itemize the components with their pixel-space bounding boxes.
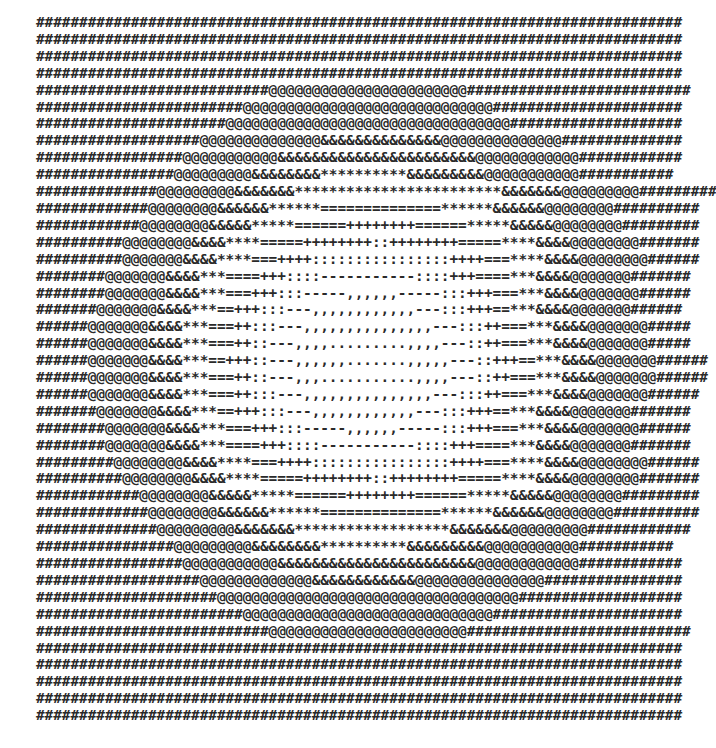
ascii-art-line: ########################@@@@@@@@@@@@@@@@…	[36, 606, 716, 623]
ascii-art-line: ######@@@@@@@&&&&***==+++::---,,,,,,....…	[36, 352, 716, 369]
ascii-art-line: ###########################@@@@@@@@@@@@@…	[36, 623, 716, 640]
ascii-art-line: ##############@@@@@@@@@&&&&&&&**********…	[36, 521, 716, 538]
ascii-art-line: ##############@@@@@@@@@&&&&&&&**********…	[36, 183, 716, 200]
ascii-art-line: ########################################…	[36, 14, 716, 31]
ascii-art-line: #######@@@@@@@&&&&***==+++:::---,,,,,,,,…	[36, 403, 716, 420]
ascii-art-block: ########################################…	[36, 14, 716, 724]
ascii-art-line: ######@@@@@@@&&&&***===++:::---,,,,,,,,,…	[36, 386, 716, 403]
ascii-art-line: ##########@@@@@@@@&&&&****=====++++++++:…	[36, 234, 716, 251]
ascii-art-line: ######@@@@@@@&&&&***===++:::---,,,,,,,,,…	[36, 318, 716, 335]
ascii-art-line: #########@@@@@@@@&&&&****===++++::::::::…	[36, 454, 716, 471]
ascii-art-line: ##########@@@@@@@&&&&****===++++::::::::…	[36, 251, 716, 268]
ascii-art-line: #################@@@@@@@@@@@&&&&&&&&&&&&…	[36, 555, 716, 572]
ascii-art-line: ########################################…	[36, 673, 716, 690]
ascii-art-line: ########@@@@@@@&&&&***====+++::::-------…	[36, 437, 716, 454]
ascii-art-line: ########################@@@@@@@@@@@@@@@@…	[36, 99, 716, 116]
ascii-art-line: #######@@@@@@@&&&&***==+++:::---,,,,,,,,…	[36, 301, 716, 318]
ascii-art-line: ################@@@@@@@@@&&&&&&&&*******…	[36, 538, 716, 555]
ascii-art-line: ###################@@@@@@@@@@@@@@&&&&&&&…	[36, 132, 716, 149]
ascii-art-line: ###################@@@@@@@@@@@@@&&&&&&&&…	[36, 572, 716, 589]
ascii-art-line: #############@@@@@@@@&&&&&&******=======…	[36, 504, 716, 521]
ascii-art-line: ########################################…	[36, 656, 716, 673]
ascii-art-line: #############@@@@@@@@&&&&&&******=======…	[36, 200, 716, 217]
ascii-art-line: ############@@@@@@@@&&&&&*****======++++…	[36, 487, 716, 504]
ascii-art-line: ########################################…	[36, 48, 716, 65]
ascii-art-line: ########@@@@@@@&&&&***====+++::::-------…	[36, 268, 716, 285]
ascii-art-line: ##########@@@@@@@@&&&&****=====++++++++:…	[36, 470, 716, 487]
ascii-art-line: ######@@@@@@@&&&&***===++::---,,,,......…	[36, 335, 716, 352]
ascii-art-line: #################@@@@@@@@@@@&&&&&&&&&&&&…	[36, 149, 716, 166]
ascii-art-line: ########################################…	[36, 65, 716, 82]
ascii-art-line: ########################################…	[36, 690, 716, 707]
ascii-art-line: ######################@@@@@@@@@@@@@@@@@@…	[36, 115, 716, 132]
ascii-art-line: #####################@@@@@@@@@@@@@@@@@@@…	[36, 589, 716, 606]
ascii-art-line: ########@@@@@@@&&&&***===+++:::-----,,,,…	[36, 285, 716, 302]
ascii-art-line: ########@@@@@@@&&&&***===+++:::-----,,,,…	[36, 420, 716, 437]
ascii-art-line: ############@@@@@@@@&&&&&*****======++++…	[36, 217, 716, 234]
ascii-art-line: ################@@@@@@@@@&&&&&&&&*******…	[36, 166, 716, 183]
ascii-art-line: ########################################…	[36, 640, 716, 657]
ascii-art-line: ########################################…	[36, 31, 716, 48]
ascii-art-line: ########################################…	[36, 707, 716, 724]
ascii-art-line: ######@@@@@@@&&&&***===++::---,,,.......…	[36, 369, 716, 386]
ascii-art-line: ###########################@@@@@@@@@@@@@…	[36, 82, 716, 99]
